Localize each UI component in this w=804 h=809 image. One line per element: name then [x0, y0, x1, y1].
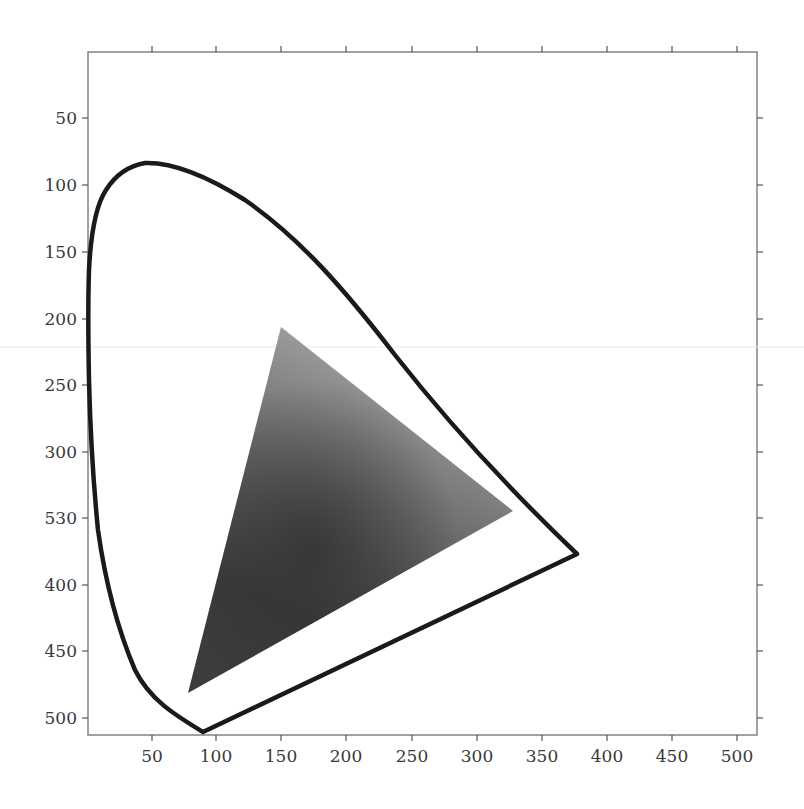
y-tick-label: 530 — [45, 508, 77, 528]
top-ticks — [152, 46, 737, 52]
x-axis-labels: 50 100 150 200 250 300 350 400 450 500 — [141, 746, 753, 766]
y-tick-label: 450 — [45, 641, 77, 661]
y-tick-label: 250 — [45, 375, 77, 395]
y-axis-labels: 50 100 150 200 250 300 530 400 450 500 — [45, 108, 77, 728]
y-tick-label: 500 — [45, 708, 77, 728]
y-tick-label: 400 — [45, 575, 77, 595]
y-tick-label: 50 — [55, 108, 77, 128]
x-tick-label: 200 — [330, 746, 362, 766]
x-tick-label: 100 — [200, 746, 232, 766]
y-tick-label: 150 — [45, 242, 77, 262]
x-tick-label: 500 — [721, 746, 753, 766]
right-ticks — [757, 118, 763, 718]
gamut-triangle-shading — [188, 327, 513, 693]
left-ticks — [82, 118, 88, 718]
chromaticity-chart: 50 100 150 200 250 300 350 400 450 500 5… — [0, 0, 804, 809]
y-tick-label: 100 — [45, 175, 77, 195]
x-tick-label: 300 — [461, 746, 493, 766]
bottom-ticks — [152, 735, 737, 741]
x-tick-label: 250 — [396, 746, 428, 766]
plot-frame — [88, 52, 757, 735]
x-tick-label: 150 — [265, 746, 297, 766]
x-tick-label: 400 — [591, 746, 623, 766]
x-tick-label: 450 — [656, 746, 688, 766]
y-tick-label: 300 — [45, 442, 77, 462]
y-tick-label: 200 — [45, 309, 77, 329]
x-tick-label: 350 — [526, 746, 558, 766]
x-tick-label: 50 — [141, 746, 163, 766]
